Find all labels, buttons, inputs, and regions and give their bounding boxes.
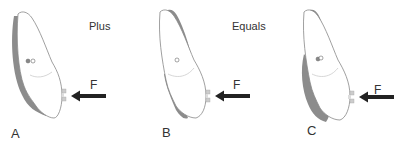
- panel-letter-b: B: [162, 125, 171, 140]
- bracket-b: [206, 90, 210, 102]
- bracket-a: [62, 89, 66, 101]
- panel-letter-a: A: [11, 126, 20, 141]
- tooth-outline-b: [159, 10, 206, 118]
- center-of-rotation-c: [319, 56, 323, 60]
- center-of-rotation-a: [31, 59, 35, 63]
- tooth-outline-a: [17, 12, 62, 118]
- force-label-a: F: [90, 78, 97, 92]
- center-of-resistance-b: [175, 58, 179, 62]
- panel-letter-c: C: [307, 123, 316, 138]
- operator-equals: Equals: [232, 20, 266, 32]
- force-label-c: F: [374, 83, 381, 97]
- center-of-resistance-a: [26, 59, 30, 63]
- operator-plus: Plus: [89, 20, 110, 32]
- force-arrow-a: [71, 91, 106, 102]
- panel-c-tooth: [302, 10, 394, 122]
- force-label-b: F: [233, 78, 240, 92]
- force-arrow-b: [215, 91, 250, 102]
- diagram-canvas: [0, 0, 396, 145]
